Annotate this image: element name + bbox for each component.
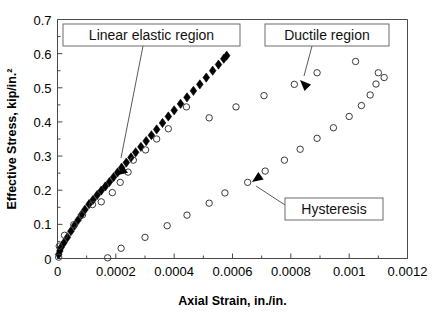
data-point bbox=[183, 104, 189, 110]
data-point bbox=[367, 92, 373, 98]
data-point bbox=[104, 255, 110, 261]
data-point bbox=[262, 168, 268, 174]
y-tick-label: 0 bbox=[44, 252, 51, 267]
data-point bbox=[142, 147, 148, 153]
figure-container: 00.00020.00040.00060.00080.0010.001200.1… bbox=[0, 0, 439, 314]
annotation-hysteresis: Hysteresis bbox=[252, 172, 383, 220]
x-tick-label: 0.0008 bbox=[271, 264, 311, 279]
y-tick-label: 0.4 bbox=[33, 115, 51, 130]
plot-frame bbox=[58, 20, 408, 259]
x-axis-ticks: 00.00020.00040.00060.00080.0010.0012 bbox=[54, 254, 428, 279]
data-point bbox=[314, 70, 320, 76]
y-tick-label: 0.6 bbox=[33, 47, 51, 62]
data-point bbox=[233, 104, 239, 110]
data-point bbox=[297, 146, 303, 152]
data-point bbox=[109, 189, 115, 195]
x-tick-label: 0.0004 bbox=[154, 264, 194, 279]
scatter-chart: 00.00020.00040.00060.00080.0010.001200.1… bbox=[0, 0, 439, 314]
x-tick-label: 0.0006 bbox=[213, 264, 253, 279]
series-linear-elastic-region bbox=[55, 51, 230, 259]
data-point bbox=[117, 179, 123, 185]
annotation-leader-line bbox=[304, 46, 312, 76]
x-tick-label: 0.001 bbox=[333, 264, 366, 279]
data-point bbox=[209, 66, 216, 75]
x-axis-title: Axial Strain, in./in. bbox=[178, 294, 286, 308]
x-tick-label: 0.0012 bbox=[388, 264, 428, 279]
data-point bbox=[261, 92, 267, 98]
axis-spines bbox=[58, 20, 408, 259]
y-tick-label: 0.1 bbox=[33, 217, 51, 232]
annotation-label: Hysteresis bbox=[301, 201, 366, 217]
data-point bbox=[153, 125, 160, 134]
data-point bbox=[373, 81, 379, 87]
series-hysteresis bbox=[104, 81, 379, 261]
data-point bbox=[132, 148, 139, 157]
series-ductile-region bbox=[55, 58, 387, 260]
annotation-arrowhead-icon bbox=[300, 80, 311, 91]
data-point bbox=[143, 136, 150, 145]
y-axis-title: Effective Stress, kip/in.² bbox=[5, 68, 19, 209]
data-point bbox=[330, 125, 336, 131]
data-point bbox=[98, 199, 104, 205]
data-point bbox=[165, 112, 172, 121]
data-point bbox=[138, 142, 145, 151]
data-point bbox=[281, 157, 287, 163]
annotation-label: Linear elastic region bbox=[89, 27, 214, 43]
data-point bbox=[381, 74, 387, 80]
y-tick-label: 0.5 bbox=[33, 81, 51, 96]
data-point bbox=[314, 135, 320, 141]
data-point bbox=[153, 136, 159, 142]
annotation-label: Ductile region bbox=[284, 27, 370, 43]
data-point bbox=[346, 113, 352, 119]
data-point bbox=[291, 81, 297, 87]
data-point bbox=[123, 158, 130, 167]
y-tick-label: 0.2 bbox=[33, 183, 51, 198]
y-tick-label: 0.7 bbox=[33, 13, 51, 28]
data-point bbox=[206, 200, 212, 206]
data-point bbox=[215, 60, 222, 69]
data-point bbox=[118, 245, 124, 251]
data-point bbox=[375, 70, 381, 76]
annotation-linear-elastic: Linear elastic region bbox=[63, 24, 240, 175]
annotation-arrowhead-icon bbox=[252, 172, 264, 182]
data-point bbox=[190, 86, 197, 95]
data-point bbox=[184, 212, 190, 218]
annotation-leader-line bbox=[121, 46, 143, 158]
data-point bbox=[164, 223, 170, 229]
x-tick-label: 0 bbox=[54, 264, 61, 279]
y-axis-ticks: 00.10.20.30.40.50.60.7 bbox=[33, 13, 62, 267]
axis-frame-top-right bbox=[58, 20, 408, 259]
data-point bbox=[159, 118, 166, 127]
data-point bbox=[206, 115, 212, 121]
data-point bbox=[171, 106, 178, 115]
annotation-leader-line bbox=[256, 186, 285, 205]
data-point bbox=[222, 190, 228, 196]
data-point bbox=[244, 179, 250, 185]
data-point bbox=[358, 102, 364, 108]
data-point bbox=[184, 93, 191, 102]
data-point bbox=[197, 80, 204, 89]
y-tick-label: 0.3 bbox=[33, 149, 51, 164]
data-point bbox=[203, 73, 210, 82]
x-tick-label: 0.0002 bbox=[96, 264, 136, 279]
data-point bbox=[142, 234, 148, 240]
annotation-ductile-region: Ductile region bbox=[265, 24, 389, 91]
data-point bbox=[352, 58, 358, 64]
data-point bbox=[165, 126, 171, 132]
